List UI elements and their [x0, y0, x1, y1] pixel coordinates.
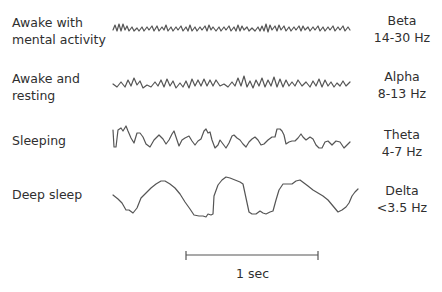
theta-wave	[113, 126, 350, 148]
delta-wave	[113, 177, 358, 217]
scale-bar-label: 1 sec	[236, 266, 269, 281]
beta-wave	[113, 24, 350, 32]
eeg-traces	[0, 0, 442, 292]
scale-bar	[186, 251, 318, 260]
alpha-wave	[113, 76, 350, 88]
